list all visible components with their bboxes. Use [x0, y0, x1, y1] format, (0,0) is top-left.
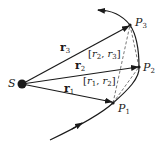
origin-dot	[18, 80, 27, 89]
vector-r2-label: r2	[75, 60, 85, 73]
point-p3-dot	[128, 23, 131, 26]
sector-r1-r2-label: [r1, r2]	[83, 76, 116, 88]
sector-r2-r3-label: [r2, r3]	[88, 49, 121, 61]
vector-r3-label: r3	[60, 42, 70, 55]
orbit-direction-arrow-lower	[72, 123, 82, 129]
point-p2-label: P2	[143, 62, 155, 75]
point-p1-dot	[111, 101, 114, 104]
point-p2-dot	[137, 65, 140, 68]
origin-label: S	[8, 78, 16, 89]
point-p1-label: P1	[118, 103, 130, 116]
point-p3-label: P3	[135, 17, 147, 30]
vector-r1-label: r1	[64, 83, 74, 96]
chord-p1-p3	[113, 25, 130, 103]
orbit-curve	[50, 10, 139, 140]
chord-p1-p2	[113, 67, 139, 103]
orbit-diagram: S P1 P2 P3 r1 r2 r3 [r1, r2] [r2, r3]	[0, 0, 165, 147]
